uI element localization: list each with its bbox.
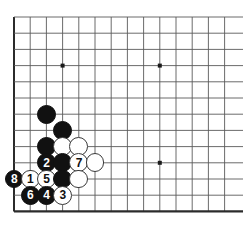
stone-move-number: 8 xyxy=(11,172,17,184)
stone-move-number: 3 xyxy=(59,189,65,201)
stone-black-a xyxy=(37,105,56,124)
stone-move-number: 7 xyxy=(76,156,82,168)
star-point-lower-right xyxy=(158,161,162,165)
stone-move-3: 3 xyxy=(53,186,72,205)
star-point-upper-left xyxy=(61,64,65,68)
stone-move-number: 2 xyxy=(43,156,49,168)
stone-move-number: 4 xyxy=(43,189,49,201)
stone-move-number: 6 xyxy=(27,189,33,201)
star-point-upper-right xyxy=(158,64,162,68)
stone-move-number: 1 xyxy=(27,172,33,184)
go-board-diagram: 27815643 xyxy=(0,0,243,228)
stone-move-number: 5 xyxy=(43,172,49,184)
